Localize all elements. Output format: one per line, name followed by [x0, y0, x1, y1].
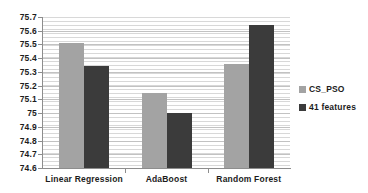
- y-axis-tick-label: 75.3: [0, 67, 37, 77]
- legend-label: 41 features: [309, 102, 356, 112]
- legend-swatch-icon: [299, 86, 306, 93]
- bar-41-features-random-forest[interactable]: [249, 25, 274, 168]
- legend-item-41-features[interactable]: 41 features: [299, 102, 356, 112]
- legend-item-cs-pso[interactable]: CS_PSO: [299, 84, 356, 94]
- x-axis-tick-mark: [125, 169, 126, 173]
- bar-chart: 75.775.675.575.475.375.275.17574.974.874…: [0, 0, 368, 193]
- chart-legend: CS_PSO41 features: [299, 84, 356, 120]
- y-axis-tick-label: 75.1: [0, 94, 37, 104]
- x-axis-line: [42, 168, 291, 169]
- y-axis-tick-label: 75.6: [0, 26, 37, 36]
- y-axis-tick-label: 75.2: [0, 81, 37, 91]
- legend-label: CS_PSO: [309, 84, 345, 94]
- y-axis-line: [42, 17, 43, 169]
- y-axis-tick-label: 74.8: [0, 136, 37, 146]
- plot-area: [43, 17, 290, 168]
- x-axis-category-label: Random Forest: [189, 174, 309, 184]
- legend-swatch-icon: [299, 104, 306, 111]
- x-axis-tick-mark: [208, 169, 209, 173]
- y-axis-tick-label: 74.7: [0, 149, 37, 159]
- y-axis-tick-label: 75.4: [0, 53, 37, 63]
- bar-cs-pso-random-forest[interactable]: [224, 64, 249, 168]
- bar-41-features-linear-regression[interactable]: [84, 66, 109, 168]
- y-axis-tick-label: 75.5: [0, 39, 37, 49]
- bar-cs-pso-adaboost[interactable]: [142, 93, 167, 168]
- y-axis-tick-label: 74.6: [0, 163, 37, 173]
- bar-cs-pso-linear-regression[interactable]: [59, 43, 84, 168]
- y-axis-tick-label: 74.9: [0, 122, 37, 132]
- bar-41-features-adaboost[interactable]: [167, 113, 192, 168]
- y-axis-tick-label: 75: [0, 108, 37, 118]
- y-axis-tick-label: 75.7: [0, 12, 37, 22]
